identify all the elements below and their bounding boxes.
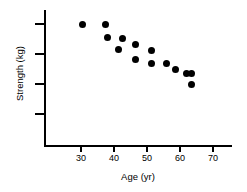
y-axis-line <box>44 10 46 147</box>
y-axis-tick <box>35 23 45 25</box>
x-axis-tick <box>113 145 115 152</box>
data-point <box>102 21 109 28</box>
y-axis-tick <box>35 53 45 55</box>
data-point <box>172 66 179 73</box>
data-point <box>79 21 86 28</box>
plot-area: 30 40 50 60 70 Age (yr) Strength (kg) <box>0 0 247 192</box>
x-axis-tick <box>146 145 148 152</box>
x-axis-tick-label: 50 <box>136 153 158 164</box>
data-point <box>188 81 195 88</box>
data-point <box>104 34 111 41</box>
data-point <box>132 41 139 48</box>
x-axis-tick <box>179 145 181 152</box>
x-axis-tick-label: 30 <box>70 153 92 164</box>
x-axis-tick-label: 40 <box>103 153 125 164</box>
data-point <box>119 35 126 42</box>
scatter-plot-figure: 30 40 50 60 70 Age (yr) Strength (kg) <box>0 0 247 192</box>
y-axis-tick <box>35 113 45 115</box>
x-axis-tick <box>212 145 214 152</box>
x-axis-line <box>44 145 232 147</box>
data-point <box>148 60 155 67</box>
y-axis-label: Strength (kg) <box>14 24 25 124</box>
x-axis-tick-label: 60 <box>169 153 191 164</box>
data-point <box>163 60 170 67</box>
data-point <box>115 46 122 53</box>
data-point <box>132 56 139 63</box>
x-axis-tick <box>80 145 82 152</box>
y-axis-tick <box>35 83 45 85</box>
data-point <box>148 47 155 54</box>
x-axis-tick-label: 70 <box>202 153 224 164</box>
data-point <box>188 70 195 77</box>
x-axis-label: Age (yr) <box>44 171 232 182</box>
